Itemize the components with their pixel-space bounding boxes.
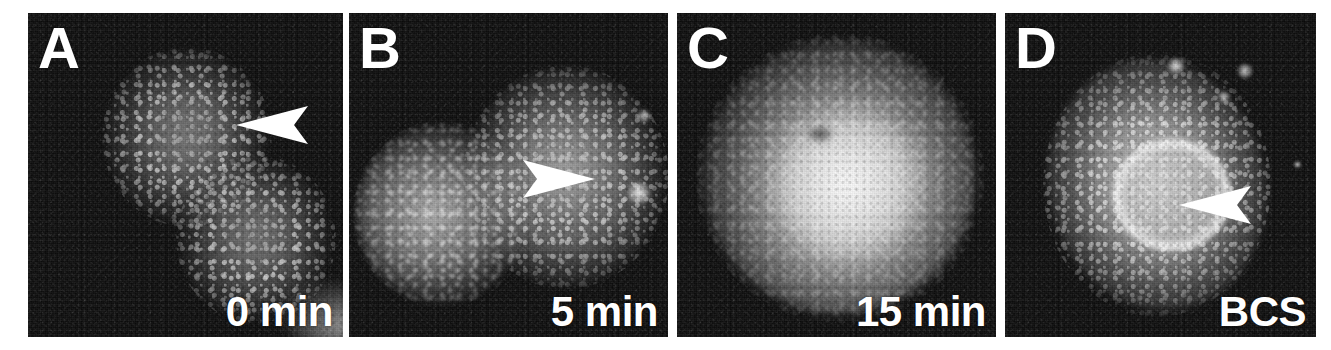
- figure-root: A 0 min B 5 min: [0, 0, 1331, 350]
- panel-letter-b: B: [359, 19, 400, 77]
- panel-caption-b: 5 min: [551, 291, 658, 333]
- panel-caption-a: 0 min: [226, 291, 333, 333]
- panel-caption-d: BCS: [1219, 291, 1306, 333]
- panel-letter-d: D: [1015, 19, 1056, 77]
- panel-a: A 0 min: [28, 13, 343, 337]
- panel-b: B 5 min: [349, 13, 668, 337]
- panel-d: D BCS: [1005, 13, 1316, 337]
- panel-caption-c: 15 min: [856, 291, 986, 333]
- panel-letter-c: C: [687, 19, 728, 77]
- panel-c: C 15 min: [677, 13, 996, 337]
- panel-letter-a: A: [38, 19, 79, 77]
